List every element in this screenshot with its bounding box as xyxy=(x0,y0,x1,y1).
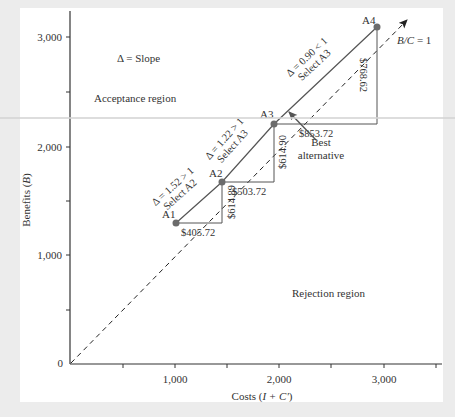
x-tick-2000: 2,000 xyxy=(267,373,292,385)
label-a4: A4 xyxy=(362,14,376,26)
delta-benefit-a1-a2: $614.89 xyxy=(226,185,237,219)
best-alternative-label-line1: Best xyxy=(311,136,331,148)
acceptance-region-label: Acceptance region xyxy=(94,92,177,104)
slope-label-a2-a3: Δ = 1.22 > 1 Select A3 xyxy=(203,116,254,169)
bc-line-label: B/C = 1 xyxy=(397,34,431,46)
delta-benefit-a2-a3: $614.90 xyxy=(277,135,288,169)
delta-cost-a2-a3: $503.72 xyxy=(232,186,266,197)
scan-artifact-line xyxy=(0,117,455,119)
y-axis-title: Benefits (B) xyxy=(20,173,33,227)
y-tick-2000: 2,000 xyxy=(37,141,62,153)
best-alternative-label-line2: alternative xyxy=(298,149,345,161)
y-tick-0: 0 xyxy=(58,357,64,369)
slope-label-a3-a4: Δ = 0.90 < 1 Select A3 xyxy=(284,35,337,87)
delta-benefit-a3-a4: $768.62 xyxy=(358,58,369,92)
alternative-points xyxy=(173,24,381,227)
slope-label-a1-a2: Δ = 1.52 > 1 Select A2 xyxy=(150,165,203,216)
incremental-bc-chart: 3,000 2,000 1,000 0 1,000 2,000 3,000 Co… xyxy=(0,0,455,417)
point-a3 xyxy=(271,121,278,128)
y-tick-1000: 1,000 xyxy=(37,249,62,261)
x-axis-title: Costs (I + C') xyxy=(232,390,293,403)
slope-note: Δ = Slope xyxy=(117,52,160,64)
x-tick-3000: 3,000 xyxy=(372,373,397,385)
label-a2: A2 xyxy=(209,167,222,179)
point-a2 xyxy=(219,179,226,186)
delta-cost-a1-a2: $405.72 xyxy=(181,227,215,238)
x-tick-1000: 1,000 xyxy=(163,373,188,385)
rejection-region-label: Rejection region xyxy=(292,287,366,299)
y-tick-3000: 3,000 xyxy=(37,31,62,43)
point-a1 xyxy=(173,220,180,227)
